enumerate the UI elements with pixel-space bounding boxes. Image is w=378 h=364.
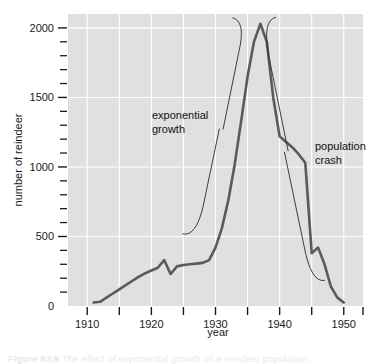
x-tick-label: 1920 (139, 318, 163, 330)
population-crash-label-line2: crash (315, 154, 342, 166)
y-axis-ticks (58, 28, 67, 237)
x-axis-title: year (207, 326, 229, 338)
x-tick-label: 1910 (75, 318, 99, 330)
exponential-growth-label-line1: exponential (152, 109, 208, 121)
figure-caption: Figure 53.9 The effect of exponential gr… (8, 353, 310, 364)
y-tick-label: 2000 (30, 22, 54, 34)
y-tick-label: 0 (48, 300, 54, 312)
y-tick-label: 1500 (30, 91, 54, 103)
x-axis-ticks (87, 307, 363, 315)
population-crash-label-line1: population (315, 140, 366, 152)
exponential-growth-label-line2: growth (152, 123, 185, 135)
y-axis-tick-labels: 0500100015002000 (30, 22, 54, 312)
x-tick-label: 1940 (267, 318, 291, 330)
x-tick-label: 1950 (332, 318, 356, 330)
y-axis-title: number of reindeer (12, 113, 24, 206)
y-tick-label: 1000 (30, 161, 54, 173)
figure-caption-body: The effect of exponential growth on a re… (62, 353, 311, 364)
figure-caption-label: Figure 53.9 (8, 353, 59, 364)
y-tick-label: 500 (36, 230, 54, 242)
